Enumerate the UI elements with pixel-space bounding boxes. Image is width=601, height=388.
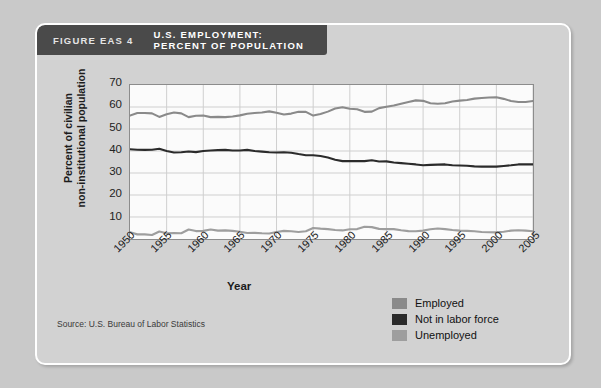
- x-tick-1950: 1950: [111, 229, 137, 255]
- series-line-unemployed: [130, 227, 533, 235]
- y-tick-40: 40: [96, 143, 122, 155]
- y-tick-20: 20: [96, 187, 122, 199]
- legend-item-not-in-labor-force[interactable]: Not in labor force: [392, 313, 499, 325]
- x-axis-title: Year: [227, 280, 251, 292]
- legend-swatch-icon: [392, 298, 407, 309]
- legend-item-unemployed[interactable]: Unemployed: [392, 329, 499, 341]
- gridlines: [130, 85, 533, 239]
- chart-legend: EmployedNot in labor forceUnemployed: [392, 297, 499, 345]
- y-tick-70: 70: [96, 76, 122, 88]
- legend-swatch-icon: [392, 330, 407, 341]
- y-tick-30: 30: [96, 165, 122, 177]
- legend-swatch-icon: [392, 314, 407, 325]
- legend-label: Not in labor force: [415, 313, 499, 325]
- source-note: Source: U.S. Bureau of Labor Statistics: [57, 319, 205, 329]
- y-tick-60: 60: [96, 98, 122, 110]
- legend-item-employed[interactable]: Employed: [392, 297, 499, 309]
- y-tick-10: 10: [96, 210, 122, 222]
- data-series-group: [130, 97, 533, 235]
- legend-label: Unemployed: [415, 329, 477, 341]
- figure-card: FIGURE EAS 4 U.S. EMPLOYMENT: PERCENT OF…: [35, 23, 571, 365]
- plot-area: [129, 84, 534, 240]
- y-tick-50: 50: [96, 121, 122, 133]
- chart-svg: [130, 85, 533, 239]
- legend-label: Employed: [415, 297, 464, 309]
